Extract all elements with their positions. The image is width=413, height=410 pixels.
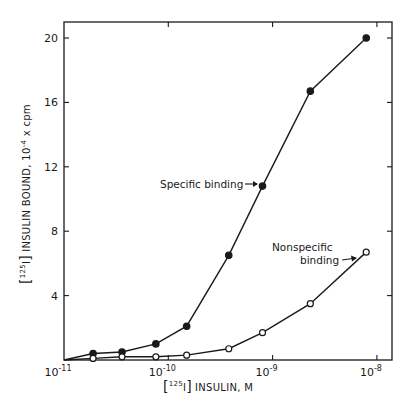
y-tick-label: 8 bbox=[51, 225, 58, 238]
annotation-nonspecific-line1: Nonspecific bbox=[272, 241, 333, 253]
arrow-head-icon bbox=[253, 181, 258, 187]
y-tick-label: 16 bbox=[44, 96, 58, 109]
y-tick-label: 20 bbox=[44, 32, 58, 45]
y-rest: INSULIN BOUND, 10 bbox=[21, 147, 32, 252]
series-line bbox=[64, 38, 366, 360]
x-superscript: 125 bbox=[169, 380, 183, 388]
filled-circle-marker bbox=[259, 183, 265, 189]
open-circle-marker bbox=[90, 355, 96, 361]
x-tick-label: 10-8 bbox=[360, 364, 382, 379]
filled-circle-marker bbox=[226, 252, 232, 258]
y-tail: x cpm bbox=[21, 104, 32, 140]
series-specific-binding bbox=[64, 35, 369, 360]
filled-circle-marker bbox=[363, 35, 369, 41]
x-axis-title: [125I]INSULIN, M bbox=[163, 378, 253, 394]
open-circle-marker bbox=[119, 354, 125, 360]
series-line bbox=[64, 252, 366, 360]
annotation-nonspecific: Nonspecific binding bbox=[272, 241, 357, 266]
filled-circle-marker bbox=[307, 88, 313, 94]
y-tick-label: 4 bbox=[51, 290, 58, 303]
x-tick-label: 10-11 bbox=[44, 364, 71, 379]
open-circle-marker bbox=[226, 346, 232, 352]
plot-border bbox=[64, 22, 392, 360]
x-tick-label: 10-10 bbox=[149, 364, 176, 379]
y-bracket-close: ] bbox=[17, 255, 33, 261]
y-superscript: 125 bbox=[19, 264, 27, 278]
open-circle-marker bbox=[259, 330, 265, 336]
annotation-specific-label: Specific binding bbox=[160, 178, 243, 190]
x-tick-label: 10-9 bbox=[256, 364, 278, 379]
open-circle-marker bbox=[363, 249, 369, 255]
x-bracket-close: ] bbox=[186, 378, 192, 394]
binding-chart: 48121620 10-1110-1010-910-8 [125I]INSULI… bbox=[0, 0, 413, 410]
x-axis-ticks: 10-1110-1010-910-8 bbox=[44, 22, 381, 379]
y-axis-ticks: 48121620 bbox=[44, 32, 392, 303]
filled-circle-marker bbox=[153, 341, 159, 347]
open-circle-marker bbox=[307, 301, 313, 307]
plot-frame bbox=[64, 22, 392, 360]
y-axis-title: [125I]INSULIN BOUND, 10-4 x cpm bbox=[17, 104, 33, 284]
y-tick-label: 12 bbox=[44, 161, 58, 174]
annotation-specific: Specific binding bbox=[160, 178, 258, 190]
x-rest: INSULIN, M bbox=[195, 382, 253, 393]
annotation-nonspecific-line2: binding bbox=[300, 254, 339, 266]
data-series bbox=[64, 35, 369, 362]
open-circle-marker bbox=[153, 354, 159, 360]
open-circle-marker bbox=[184, 352, 190, 358]
filled-circle-marker bbox=[183, 323, 189, 329]
